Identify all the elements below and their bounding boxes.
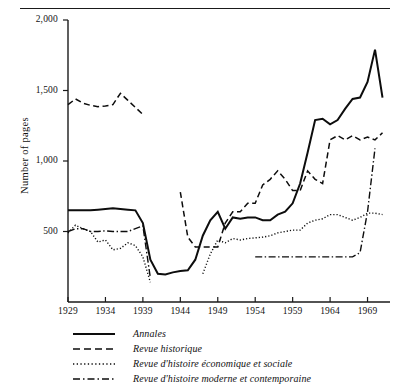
legend-line-swatch-icon xyxy=(64,359,124,369)
legend-item[interactable]: Annales xyxy=(64,326,394,341)
x-axis-ticks xyxy=(68,297,368,302)
legend-item[interactable]: Revue historique xyxy=(64,341,394,356)
y-axis-ticks xyxy=(63,20,68,232)
legend-item[interactable]: Revue d'histoire moderne et contemporain… xyxy=(64,371,394,386)
chart-legend: AnnalesRevue historiqueRevue d'histoire … xyxy=(64,326,394,386)
legend-item[interactable]: Revue d'histoire économique et sociale xyxy=(64,356,394,371)
legend-item-label: Revue historique xyxy=(124,343,202,354)
series-line xyxy=(68,50,383,275)
legend-item-label: Revue d'histoire économique et sociale xyxy=(124,358,292,369)
legend-line-swatch-icon xyxy=(64,329,124,339)
data-series-group xyxy=(68,50,383,283)
legend-item-label: Annales xyxy=(124,328,166,339)
series-line xyxy=(68,93,383,247)
legend-item-label: Revue d'histoire moderne et contemporain… xyxy=(124,373,311,384)
legend-line-swatch-icon xyxy=(64,344,124,354)
chart-page: Number of pages 5001,0001,5002,000 19291… xyxy=(0,0,402,390)
axes xyxy=(63,20,390,302)
legend-line-swatch-icon xyxy=(64,374,124,384)
series-line xyxy=(68,148,375,278)
